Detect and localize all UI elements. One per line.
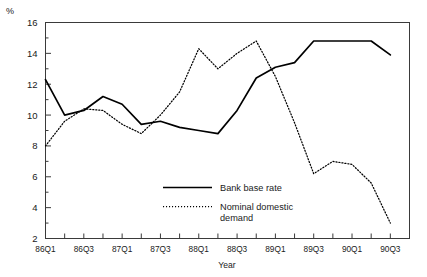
x-axis-tick-label: 88Q3 bbox=[227, 244, 248, 254]
x-axis-tick-label: 87Q3 bbox=[150, 244, 171, 254]
legend-label-bank-base-rate: Bank base rate bbox=[220, 183, 282, 193]
x-axis-title: Year bbox=[218, 260, 236, 270]
y-axis-tick-label: 8 bbox=[32, 140, 37, 151]
legend-label-nominal-domestic-demand: Nominal domestic bbox=[220, 202, 293, 212]
y-axis-tick-label: 2 bbox=[32, 233, 37, 244]
y-axis-tick-label: 14 bbox=[27, 48, 38, 59]
x-axis-tick-label: 86Q3 bbox=[74, 244, 95, 254]
x-axis-tick-label: 90Q3 bbox=[380, 244, 401, 254]
y-axis-tick-label: 12 bbox=[27, 79, 38, 90]
x-axis-tick-label: 86Q1 bbox=[35, 244, 56, 254]
chart-figure: % 246810121416 86Q186Q387Q187Q388Q188Q38… bbox=[0, 0, 427, 277]
line-chart-canvas: 246810121416 86Q186Q387Q187Q388Q188Q389Q… bbox=[0, 0, 427, 277]
x-axis-tick-label: 90Q1 bbox=[342, 244, 363, 254]
x-axis-tick-label: 88Q1 bbox=[189, 244, 210, 254]
x-axis-tick-label: 89Q1 bbox=[265, 244, 286, 254]
x-axis-tick-label: 87Q1 bbox=[112, 244, 133, 254]
x-axis-tick-label: 89Q3 bbox=[304, 244, 325, 254]
legend-label-nominal-domestic-demand-line2: demand bbox=[220, 213, 253, 223]
y-axis-tick-label: 10 bbox=[27, 110, 38, 121]
y-axis-tick-label: 4 bbox=[32, 202, 37, 213]
y-axis-unit-label: % bbox=[6, 6, 14, 16]
y-axis-tick-label: 6 bbox=[32, 171, 37, 182]
y-axis-tick-label: 16 bbox=[27, 17, 38, 28]
